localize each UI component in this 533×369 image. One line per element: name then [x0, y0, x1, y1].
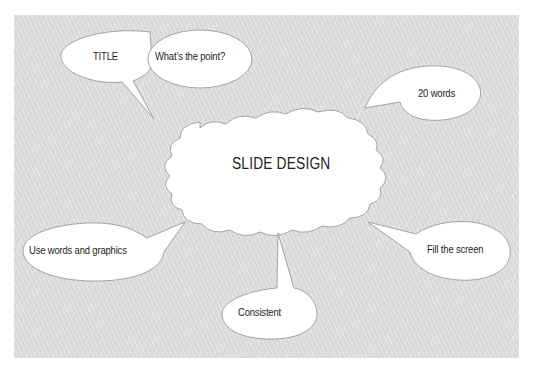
bubble-label-words: 20 words [418, 87, 455, 99]
speech-bubble-title [61, 31, 154, 119]
speech-bubble-consistent [222, 233, 317, 339]
bubble-label-title: TITLE [93, 50, 118, 62]
bubble-label-graphics: Use words and graphics [29, 244, 127, 256]
bubble-label-point: What’s the point? [155, 50, 225, 62]
bubble-label-fill: Fill the screen [427, 243, 483, 255]
bubble-label-consistent: Consistent [238, 306, 281, 318]
cloud-label: SLIDE DESIGN [232, 155, 330, 173]
